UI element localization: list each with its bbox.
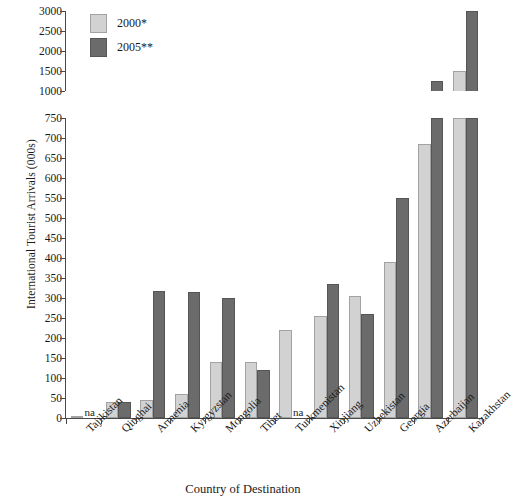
axis-tick-mark	[60, 218, 65, 219]
axis-tick-mark	[60, 358, 65, 359]
category-tick-mark	[344, 419, 345, 424]
category-tick-mark	[66, 419, 67, 424]
axis-tick-mark	[60, 158, 65, 159]
bar-azerbaijan-2005-upper	[431, 81, 444, 91]
bar-kazakhstan-2000-upper	[453, 71, 466, 91]
axis-tick-mark	[60, 378, 65, 379]
category-tick-mark	[240, 419, 241, 424]
category-tick-mark	[136, 419, 137, 424]
axis-tick-mark	[60, 298, 65, 299]
axis-tick-mark	[60, 418, 65, 419]
category-tick-mark	[170, 419, 171, 424]
axis-tick-mark	[60, 318, 65, 319]
category-tick-mark	[275, 419, 276, 424]
x-axis-title: Country of Destination	[0, 482, 486, 497]
bar-tibet-2005	[257, 370, 270, 418]
axis-tick-label: 1500	[39, 66, 62, 76]
category-tick-mark	[483, 419, 484, 424]
bar-kazakhstan-2000	[453, 118, 466, 418]
axis-tick-mark	[60, 338, 65, 339]
axis-tick-mark	[60, 11, 65, 12]
bar-azerbaijan-2005	[431, 118, 444, 418]
axis-tick-mark	[60, 138, 65, 139]
axis-tick-mark	[60, 258, 65, 259]
category-tick-mark	[448, 419, 449, 424]
axis-tick-mark	[60, 178, 65, 179]
bar-azerbaijan-2000	[418, 144, 431, 418]
lower-plot-panel: nana	[66, 118, 483, 418]
axis-tick-mark	[60, 91, 65, 92]
bar-uzbekistan-2005	[361, 314, 374, 418]
bar-kazakhstan-2005-upper	[466, 11, 479, 91]
category-tick-mark	[205, 419, 206, 424]
axis-tick-mark	[60, 398, 65, 399]
bar-georgia-2005	[396, 198, 409, 418]
category-tick-mark	[309, 419, 310, 424]
category-tick-mark	[379, 419, 380, 424]
axis-tick-mark	[60, 118, 65, 119]
axis-tick-label: 1000	[39, 86, 62, 96]
bar-kyrgyzstan-2005	[188, 292, 201, 418]
bar-kazakhstan-2005	[466, 118, 479, 418]
bar-armenia-2005	[153, 291, 166, 418]
y-axis-title: International Tourist Arrivals (000s)	[25, 89, 37, 359]
axis-tick-label: 3000	[39, 6, 62, 16]
category-tick-mark	[101, 419, 102, 424]
axis-tick-mark	[60, 31, 65, 32]
axis-tick-mark	[60, 278, 65, 279]
axis-tick-label: 2000	[39, 46, 62, 56]
axis-tick-mark	[60, 51, 65, 52]
category-tick-mark	[414, 419, 415, 424]
axis-tick-mark	[60, 198, 65, 199]
bar-turkmenistan-2000	[279, 330, 292, 418]
upper-plot-panel	[66, 11, 483, 91]
axis-tick-mark	[60, 238, 65, 239]
axis-tick-mark	[60, 71, 65, 72]
axis-tick-label: 2500	[39, 26, 62, 36]
